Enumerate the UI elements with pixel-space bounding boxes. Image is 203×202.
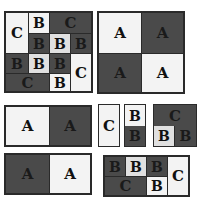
small-cbb-panel: C B B <box>153 104 197 147</box>
single-cell: C <box>99 105 119 146</box>
pair-panel-2: A A <box>4 153 92 195</box>
stack-cell: B <box>125 126 145 146</box>
mosaic-cell: B <box>104 156 126 177</box>
top-right-quad-panel: A A A A <box>97 11 185 94</box>
pair-cell: A <box>49 106 91 146</box>
mosaic-cell: B <box>49 73 71 92</box>
mosaic-cell: C <box>104 176 147 196</box>
mosaic-cell: B <box>146 176 168 196</box>
quad-cell: A <box>141 53 184 93</box>
mosaic-cell: B <box>28 53 50 74</box>
pair-cell: A <box>5 106 50 146</box>
mosaic-cell: C <box>49 12 92 34</box>
small-bb-panel: B B <box>124 104 146 147</box>
mosaic-cell: C <box>70 53 92 92</box>
cbb-cell: C <box>154 105 196 127</box>
mosaic-cell: B <box>146 156 168 177</box>
pair-cell: A <box>49 154 91 194</box>
mosaic-cell: C <box>167 156 189 196</box>
pair-panel-1: A A <box>4 105 92 147</box>
bottom-right-mosaic-panel: B B B C C B <box>103 155 190 197</box>
mosaic-cell: C <box>5 73 50 92</box>
mosaic-cell: B <box>28 33 50 54</box>
top-left-mosaic-panel: C B C B B B B B B C C B <box>4 11 93 93</box>
mosaic-cell: C <box>5 12 29 54</box>
mosaic-cell: B <box>125 156 147 177</box>
stack-cell: B <box>125 105 145 127</box>
pair-cell: A <box>5 154 50 194</box>
cbb-cell: B <box>154 126 175 146</box>
mosaic-cell: B <box>5 53 29 74</box>
mosaic-cell: B <box>70 33 92 54</box>
mosaic-cell: B <box>49 53 71 74</box>
mosaic-cell: B <box>28 12 50 34</box>
quad-cell: A <box>141 12 184 54</box>
quad-cell: A <box>98 12 142 54</box>
mosaic-cell: B <box>49 33 71 54</box>
cbb-cell: B <box>175 126 196 146</box>
small-c-panel: C <box>98 104 120 147</box>
quad-cell: A <box>98 53 142 93</box>
